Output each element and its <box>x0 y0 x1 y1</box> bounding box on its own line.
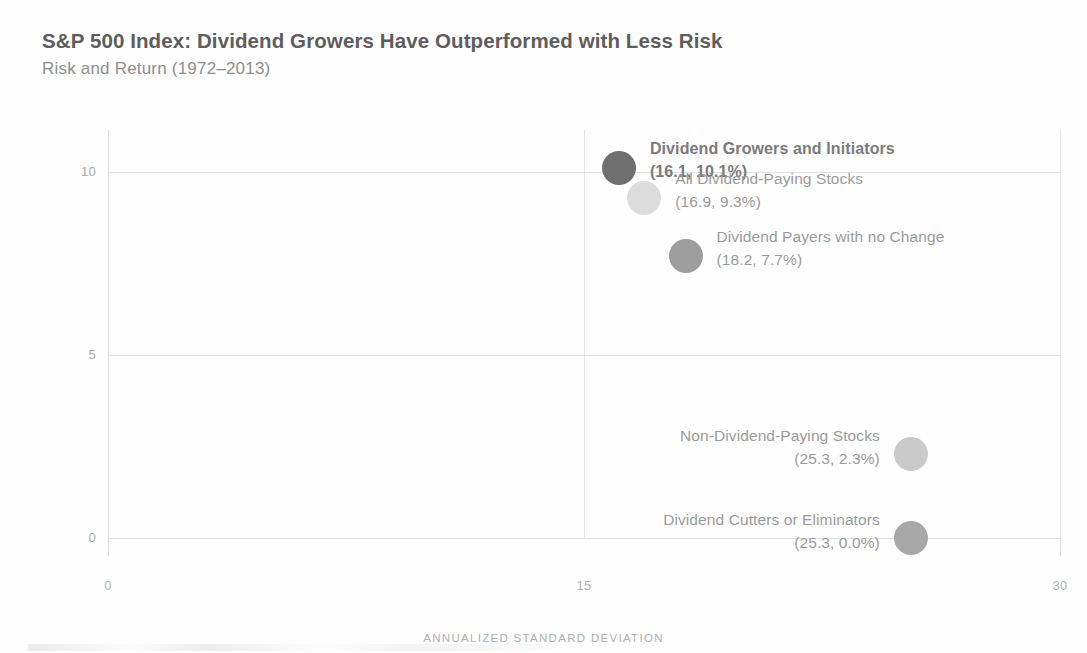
chart-page: S&P 500 Index: Dividend Growers Have Out… <box>0 0 1087 653</box>
data-point-name: Non-Dividend-Paying Stocks <box>680 427 880 444</box>
data-point-name: Dividend Cutters or Eliminators <box>663 511 880 528</box>
x-tick-label: 0 <box>88 578 128 593</box>
x-gridline <box>584 130 585 538</box>
data-point-name: All Dividend-Paying Stocks <box>675 170 863 187</box>
data-point-annotation: Non-Dividend-Paying Stocks(25.3, 2.3%) <box>680 424 880 470</box>
data-point-marker[interactable] <box>669 239 703 273</box>
data-point-value: (16.9, 9.3%) <box>675 190 863 213</box>
data-point-marker[interactable] <box>894 521 928 555</box>
data-point-name: Dividend Growers and Initiators <box>650 140 895 157</box>
data-point-value: (25.3, 2.3%) <box>680 447 880 470</box>
x-tick-label: 15 <box>564 578 604 593</box>
data-point-marker[interactable] <box>627 181 661 215</box>
data-point-marker[interactable] <box>894 437 928 471</box>
scan-artifact <box>28 644 588 651</box>
data-point-annotation: All Dividend-Paying Stocks(16.9, 9.3%) <box>675 167 863 213</box>
y-tick-label: 0 <box>56 530 96 545</box>
y-tick-label: 10 <box>56 164 96 179</box>
y-tick-label: 5 <box>56 347 96 362</box>
data-point-annotation: Dividend Cutters or Eliminators(25.3, 0.… <box>663 508 880 554</box>
chart-subtitle: Risk and Return (1972–2013) <box>42 59 270 79</box>
x-axis-label: ANNUALIZED STANDARD DEVIATION <box>0 632 1087 644</box>
data-point-value: (18.2, 7.7%) <box>717 248 945 271</box>
data-point-name: Dividend Payers with no Change <box>717 228 945 245</box>
data-point-marker[interactable] <box>602 151 636 185</box>
y-axis-line <box>108 130 109 538</box>
plot-area <box>108 130 1060 538</box>
data-point-value: (25.3, 0.0%) <box>663 531 880 554</box>
x-gridline <box>1060 130 1061 538</box>
x-tick-label: 30 <box>1040 578 1080 593</box>
chart-title: S&P 500 Index: Dividend Growers Have Out… <box>42 29 722 53</box>
data-point-annotation: Dividend Payers with no Change(18.2, 7.7… <box>717 225 945 271</box>
